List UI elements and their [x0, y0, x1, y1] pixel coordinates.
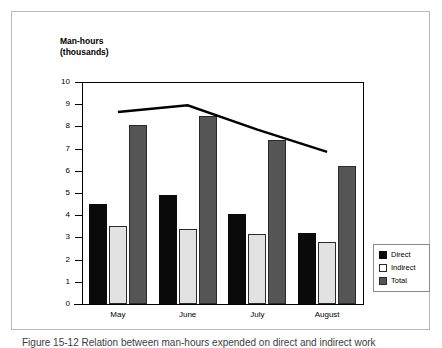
y-axis-label: 7	[48, 145, 70, 153]
x-axis-label-july: July	[223, 310, 293, 319]
legend-item-direct: Direct	[379, 250, 424, 260]
bar-indirect-june	[179, 229, 197, 304]
bar-direct-june	[159, 195, 177, 304]
legend-label: Indirect	[391, 264, 416, 272]
y-axis-label: 8	[48, 122, 70, 130]
bars-layer	[83, 82, 362, 304]
bar-indirect-july	[248, 234, 266, 304]
x-axis-label-august: August	[292, 310, 362, 319]
legend-item-total: Total	[379, 276, 424, 286]
bar-total-july	[268, 140, 286, 304]
bar-direct-july	[228, 214, 246, 304]
y-axis-tick	[75, 215, 82, 216]
legend-label: Direct	[391, 251, 411, 259]
x-axis-label-may: May	[83, 310, 153, 319]
figure-caption: Figure 15-12 Relation between man-hours …	[22, 337, 376, 348]
y-axis-label: 5	[48, 189, 70, 197]
y-axis-tick	[75, 260, 82, 261]
y-axis-label: 10	[48, 78, 70, 86]
legend-swatch-total-icon	[379, 277, 387, 285]
bar-indirect-august	[318, 242, 336, 304]
x-axis-baseline	[74, 304, 363, 305]
legend-swatch-indirect-icon	[379, 264, 387, 272]
y-axis-tick	[75, 171, 82, 172]
chart-legend: DirectIndirectTotal	[373, 244, 430, 292]
y-axis-tick	[75, 149, 82, 150]
y-axis-label: 2	[48, 256, 70, 264]
y-axis-tick	[75, 82, 82, 83]
legend-swatch-direct-icon	[379, 251, 387, 259]
legend-label: Total	[391, 277, 407, 285]
y-axis-tick	[75, 282, 82, 283]
y-axis-label: 3	[48, 233, 70, 241]
bar-direct-may	[89, 204, 107, 304]
x-axis-label-june: June	[153, 310, 223, 319]
y-axis-tick	[75, 193, 82, 194]
chart-axis-title: Man-hours (thousands)	[60, 36, 109, 58]
bar-total-june	[199, 116, 217, 304]
bar-total-august	[338, 166, 356, 304]
bar-indirect-may	[109, 226, 127, 304]
bar-total-may	[129, 125, 147, 304]
bar-direct-august	[298, 233, 316, 304]
y-axis-tick	[75, 104, 82, 105]
y-axis-tick	[75, 126, 82, 127]
y-axis-tick	[75, 237, 82, 238]
y-axis-label: 9	[48, 100, 70, 108]
y-axis-label: 0	[48, 300, 70, 308]
legend-item-indirect: Indirect	[379, 263, 424, 273]
y-axis-label: 6	[48, 167, 70, 175]
y-axis-tick	[75, 304, 82, 305]
y-axis-label: 4	[48, 211, 70, 219]
y-axis-label: 1	[48, 278, 70, 286]
figure-frame: Man-hours (thousands) 109876543210 MayJu…	[11, 11, 430, 330]
